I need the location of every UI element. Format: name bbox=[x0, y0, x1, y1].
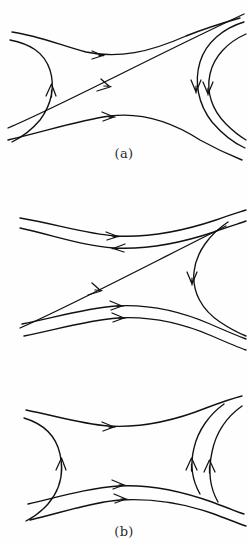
arrowhead-right-outer-down bbox=[203, 82, 213, 95]
panel-b-diagram bbox=[0, 180, 248, 370]
separatrix-diagonal bbox=[8, 14, 244, 128]
arrowhead-right-down bbox=[187, 272, 197, 285]
panel-a: (a) bbox=[0, 0, 248, 180]
streamline-right-turn bbox=[194, 222, 246, 336]
arrowhead-left-up bbox=[46, 84, 56, 97]
arrowhead-bottom-outer-right bbox=[114, 494, 127, 503]
panel-b: (b) bbox=[0, 180, 248, 370]
arrowhead-top-right bbox=[92, 51, 104, 59]
panel-label-a: (a) bbox=[0, 146, 248, 161]
streamline-right-inner-turn bbox=[192, 404, 224, 494]
panel-c: (c) bbox=[0, 370, 248, 545]
arrowhead-right-outer-up bbox=[204, 460, 215, 473]
figure-sheet: (a) bbox=[0, 0, 248, 545]
streamline-bottom-outer bbox=[24, 318, 246, 350]
streamline-top-branch bbox=[26, 396, 242, 426]
arrowhead-left-up bbox=[56, 458, 66, 471]
streamline-bottom-outer bbox=[30, 500, 246, 526]
streamline-left-turn bbox=[10, 40, 52, 142]
streamline-right-outer-turn bbox=[210, 406, 242, 502]
arrowhead-bottom-inner-right bbox=[112, 480, 125, 489]
panel-c-diagram bbox=[0, 370, 248, 545]
arrowhead-right-inner-down bbox=[191, 80, 201, 93]
